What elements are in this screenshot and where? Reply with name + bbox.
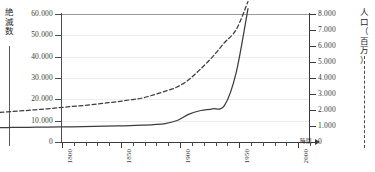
x-axis-tick <box>239 142 240 148</box>
right-axis-tick <box>310 14 316 15</box>
right-axis-tick <box>310 30 316 31</box>
x-axis-tick-label: 1850 <box>125 149 133 163</box>
right-axis-tick-label: 2.000 <box>318 105 336 114</box>
right-axis-tick-label: 6.000 <box>318 41 336 50</box>
x-axis-tick <box>204 142 205 146</box>
left-axis-tick-label: 10.000 <box>31 116 53 125</box>
left-axis-tick <box>55 35 61 36</box>
x-axis-tick-label: 1900 <box>184 149 192 163</box>
right-axis-tick-label: 3.000 <box>318 89 336 98</box>
x-axis-tick <box>62 142 63 148</box>
x-axis-tick <box>216 142 217 146</box>
bottom-axis-spine <box>61 142 317 143</box>
x-axis-tick <box>310 142 311 146</box>
x-axis-tick <box>263 142 264 146</box>
left-axis-tick <box>55 57 61 58</box>
left-axis-spine <box>61 13 62 143</box>
left-axis-tick-label: 60.000 <box>31 9 53 18</box>
right-axis-tick-label: 0 <box>318 137 322 146</box>
left-axis-tick-label: 0 <box>49 137 53 146</box>
x-axis-tick <box>109 142 110 146</box>
extinction-population-chart: 絶 滅 数 人 口 （ 百 万 ） 時間 010.00020.00030.000… <box>0 0 375 172</box>
x-axis-tick <box>97 142 98 146</box>
x-axis-tick <box>145 142 146 146</box>
right-axis-tick <box>310 110 316 111</box>
left-axis-tick <box>55 14 61 15</box>
x-axis-tick <box>121 142 122 148</box>
left-axis-tick <box>55 142 61 143</box>
left-axis-tick-label: 50.000 <box>31 30 53 39</box>
x-axis-tick <box>298 142 299 148</box>
left-axis-tick-label: 20.000 <box>31 94 53 103</box>
x-axis-tick <box>74 142 75 146</box>
x-axis-tick <box>86 142 87 146</box>
x-axis-tick <box>156 142 157 146</box>
x-axis-tick-label: 1950 <box>243 149 251 163</box>
right-axis-tick <box>310 94 316 95</box>
left-axis-tick-label: 30.000 <box>31 73 53 82</box>
x-axis-tick-label: 1800 <box>66 149 74 163</box>
left-axis-tick <box>55 121 61 122</box>
right-axis-tick <box>310 78 316 79</box>
right-axis-tick-label: 8.000 <box>318 9 336 18</box>
right-axis-tick <box>310 62 316 63</box>
x-axis-tick <box>192 142 193 146</box>
right-axis-tick-label: 7.000 <box>318 25 336 34</box>
x-axis-tick <box>286 142 287 146</box>
x-axis-tick <box>180 142 181 148</box>
x-axis-tick <box>275 142 276 146</box>
x-axis-tick <box>227 142 228 146</box>
curves-svg <box>0 0 260 132</box>
right-axis-tick <box>310 126 316 127</box>
left-axis-tick-label: 40.000 <box>31 52 53 61</box>
left-axis-tick <box>55 99 61 100</box>
right-axis-tick <box>310 46 316 47</box>
left-axis-tick <box>55 78 61 79</box>
right-axis-tick-label: 1.000 <box>318 121 336 130</box>
x-axis-tick-label: 2000 <box>302 149 310 163</box>
x-axis-tick <box>133 142 134 146</box>
right-axis-tick-label: 4.000 <box>318 73 336 82</box>
right-axis-tick-label: 5.000 <box>318 57 336 66</box>
x-axis-tick <box>168 142 169 146</box>
x-axis-tick <box>251 142 252 146</box>
